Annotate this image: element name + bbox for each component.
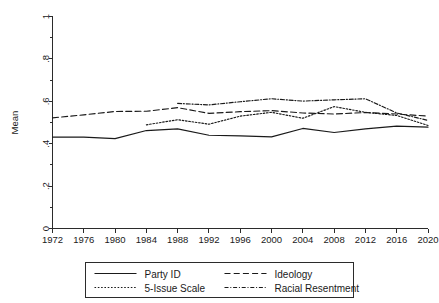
y-axis-title: Mean [9, 111, 20, 135]
x-tick-label: 1980 [105, 234, 126, 245]
x-tick-label: 1988 [167, 234, 188, 245]
x-tick-label: 1976 [73, 234, 94, 245]
y-tick-label: .2 [40, 182, 51, 190]
y-tick-label: .4 [40, 140, 51, 148]
chart-legend: Party IDIdeology5-Issue ScaleRacial Rese… [86, 263, 360, 298]
legend-label-1: Ideology [275, 269, 313, 280]
x-tick-label: 1972 [42, 234, 63, 245]
x-tick-label: 2016 [386, 234, 407, 245]
x-tick-label: 1996 [230, 234, 251, 245]
x-tick-label: 2004 [292, 234, 313, 245]
legend-label-0: Party ID [145, 269, 181, 280]
y-tick-label: .6 [40, 97, 51, 105]
x-tick-label: 2012 [355, 234, 376, 245]
x-tick-label: 2020 [417, 234, 438, 245]
line-chart: 0.2.4.6.81 19721976198019841988199219962… [0, 0, 439, 303]
x-tick-label: 2008 [324, 234, 345, 245]
x-tick-label: 2000 [261, 234, 282, 245]
y-tick-label: 0 [40, 226, 51, 231]
x-tick-label: 1984 [136, 234, 157, 245]
chart-figure: 0.2.4.6.81 19721976198019841988199219962… [0, 0, 439, 303]
y-tick-label: 1 [40, 14, 51, 19]
legend-label-2: 5-Issue Scale [145, 283, 206, 294]
legend-label-3: Racial Resentment [275, 283, 360, 294]
y-tick-label: .8 [40, 55, 51, 63]
y-axis-label: Mean [9, 111, 20, 135]
x-tick-label: 1992 [198, 234, 219, 245]
chart-background [0, 0, 439, 303]
